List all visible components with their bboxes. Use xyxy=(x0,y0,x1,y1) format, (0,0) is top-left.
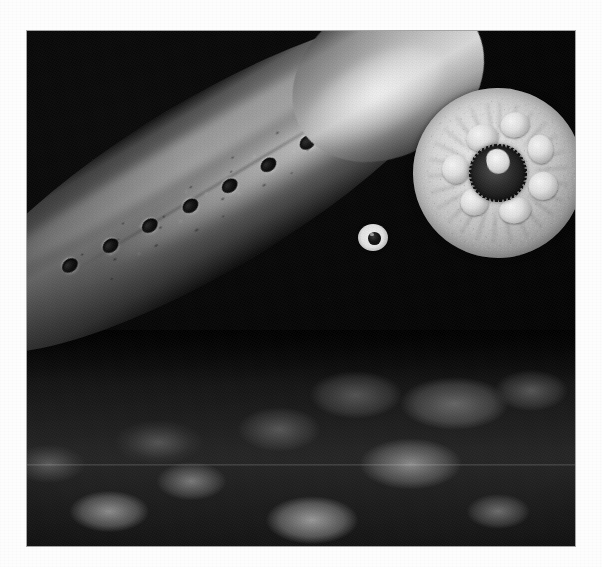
oral-disc xyxy=(398,72,575,274)
gill-slit xyxy=(100,235,121,256)
gill-slit xyxy=(258,154,279,175)
page: Lamprey showing oral disc, eye and seven… xyxy=(0,0,602,567)
eye-glint xyxy=(370,233,374,237)
photograph xyxy=(27,31,575,546)
gill-slit xyxy=(219,175,240,196)
eye xyxy=(358,224,388,251)
gill-slit xyxy=(60,255,81,276)
scan-line-artifact xyxy=(27,464,575,466)
gill-slit xyxy=(180,195,201,216)
gravel-substrate xyxy=(27,330,575,546)
gill-slit xyxy=(140,215,161,236)
gravel-shadow xyxy=(27,330,575,546)
